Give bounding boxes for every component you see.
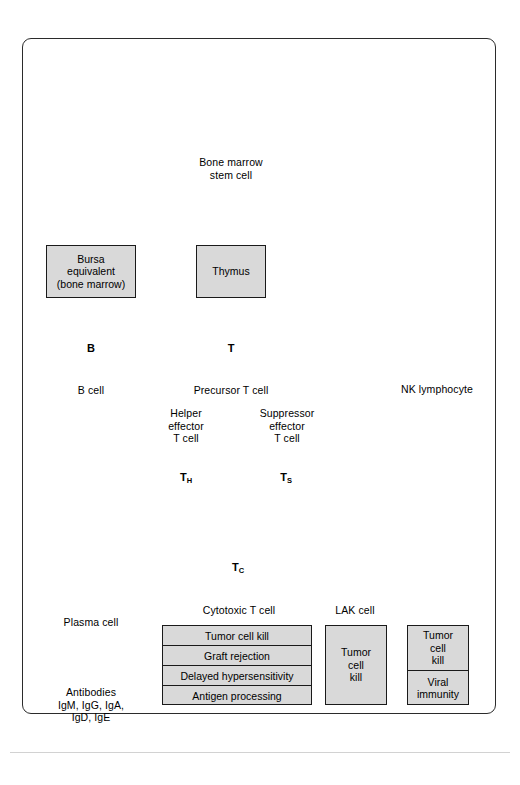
label-tcell: Precursor T cell [176,384,286,397]
function-row[interactable]: Viral immunity [408,671,468,705]
function-row[interactable]: Delayed hypersensitivity [163,666,311,686]
organ-box-thymus-label: Thymus [212,265,249,278]
label-ts-cell: Suppressor effector T cell [243,407,331,445]
label-bcell: B cell [51,384,131,397]
function-row[interactable]: Tumor cell kill [163,626,311,646]
function-box-lak-label: Tumor cell kill [341,646,371,684]
function-row[interactable]: Graft rejection [163,646,311,666]
function-box-nk[interactable]: Tumor cell kill Viral immunity [407,625,469,705]
page-bottom-rule [10,752,510,753]
function-box-lak[interactable]: Tumor cell kill [325,625,387,705]
organ-box-bursa[interactable]: Bursa equivalent (bone marrow) [46,245,136,298]
label-th-cell: Helper effector T cell [146,407,226,445]
function-row[interactable]: Antigen processing [163,686,311,706]
function-row[interactable]: Tumor cell kill [408,626,468,671]
label-antibodies: Antibodies IgM, IgG, IgA, IgD, IgE [36,686,146,724]
label-nk-lymphocyte: NK lymphocyte [382,383,492,396]
label-plasma-cell: Plasma cell [46,616,136,629]
organ-box-thymus[interactable]: Thymus [196,245,266,298]
label-stem-cell: Bone marrow stem cell [176,156,286,181]
function-box-t-cell[interactable]: Tumor cell kill Graft rejection Delayed … [162,625,312,705]
organ-box-bursa-label: Bursa equivalent (bone marrow) [57,253,125,291]
label-lak-cell: LAK cell [313,604,397,617]
label-tc-cell: Cytotoxic T cell [180,604,298,617]
